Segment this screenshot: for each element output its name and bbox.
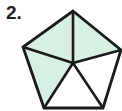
figure-panel: 2. [0,0,122,111]
pentagon-diagram [0,0,122,111]
